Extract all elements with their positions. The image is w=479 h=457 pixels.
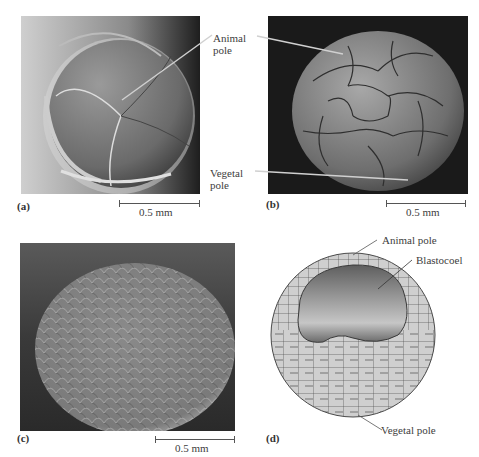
panel-letter-b: (b) [266, 198, 279, 210]
label-animal-pole: Animal pole [213, 32, 246, 56]
panel-letter-d: (d) [266, 432, 279, 444]
leader-line-animal-pole-a [120, 30, 220, 110]
label-d-blastocoel: Blastocoel [416, 254, 462, 266]
panel-letter-a: (a) [17, 200, 30, 212]
label-vegetal-pole: Vegetal pole [210, 167, 243, 191]
leader-line-animal-pole-b [255, 30, 350, 60]
micrograph-c [20, 243, 235, 431]
scale-label-b: 0.5 mm [406, 206, 440, 218]
leader-line-d-animal-pole [350, 237, 380, 259]
label-d-vegetal-pole: Vegetal pole [381, 424, 436, 436]
scale-label-a: 0.5 mm [139, 206, 173, 218]
label-d-animal-pole: Animal pole [382, 234, 437, 246]
panel-letter-c: (c) [17, 432, 29, 444]
scale-label-c: 0.5 mm [175, 442, 209, 454]
leader-line-vegetal-pole-b [253, 165, 413, 185]
leader-line-d-blastocoel [375, 257, 415, 293]
